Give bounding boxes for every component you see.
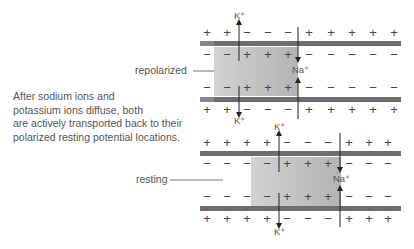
svg-text:−: − [369,47,377,62]
svg-text:−: − [327,80,335,95]
svg-text:+: + [243,47,251,62]
svg-text:+: + [203,25,211,40]
svg-text:+: + [345,211,353,226]
svg-text:−: − [345,156,353,171]
svg-text:−: − [243,156,251,171]
repolarized-diagram: ++−−− +++++ −−+++ −−−−− −−+++ −−−−− ++−−… [200,10,401,126]
svg-text:+: + [243,80,251,95]
svg-text:+: + [304,156,312,171]
svg-text:−: − [348,80,356,95]
svg-text:+: + [264,47,272,62]
k-ion-label-top: K⁺ [274,121,285,132]
svg-text:−: − [243,189,251,204]
svg-text:−: − [284,25,292,40]
svg-text:+: + [345,135,353,150]
svg-text:+: + [365,211,373,226]
svg-text:+: + [243,135,251,150]
svg-text:+: + [223,102,231,117]
svg-text:+: + [305,25,313,40]
svg-text:+: + [264,80,272,95]
svg-text:+: + [263,135,271,150]
svg-text:−: − [305,80,313,95]
svg-text:−: − [264,25,272,40]
svg-text:+: + [223,211,231,226]
k-ion-label-bottom: K⁺ [274,226,285,237]
svg-text:−: − [203,80,211,95]
svg-text:+: + [283,189,291,204]
svg-text:−: − [203,156,211,171]
svg-text:+: + [390,25,398,40]
svg-text:+: + [384,211,392,226]
svg-text:+: + [327,25,335,40]
svg-text:+: + [203,211,211,226]
svg-text:+: + [384,135,392,150]
svg-text:−: − [223,80,231,95]
svg-text:+: + [348,102,356,117]
svg-text:+: + [348,25,356,40]
svg-text:−: − [390,47,398,62]
svg-text:−: − [365,189,373,204]
svg-text:−: − [284,102,292,117]
svg-text:+: + [365,135,373,150]
svg-text:−: − [345,189,353,204]
svg-text:+: + [203,135,211,150]
svg-text:−: − [223,189,231,204]
svg-text:−: − [324,211,332,226]
svg-text:−: − [264,102,272,117]
svg-text:+: + [263,211,271,226]
svg-text:−: − [243,25,251,40]
svg-text:−: − [369,80,377,95]
svg-text:+: + [223,135,231,150]
svg-text:+: + [284,80,292,95]
svg-text:−: − [223,47,231,62]
svg-text:−: − [348,47,356,62]
svg-text:−: − [384,189,392,204]
svg-text:−: − [327,47,335,62]
svg-text:+: + [369,25,377,40]
membrane-diagram: ++−−− +++++ −−+++ −−−−− −−+++ −−−−− ++−−… [0,0,414,249]
svg-text:+: + [304,189,312,204]
svg-text:−: − [263,156,271,171]
svg-text:−: − [203,189,211,204]
k-ion-label-bottom: K⁺ [234,115,245,126]
k-ion-label-top: K⁺ [234,10,245,21]
svg-text:+: + [369,102,377,117]
svg-text:−: − [223,156,231,171]
svg-text:−: − [283,211,291,226]
svg-text:−: − [263,189,271,204]
svg-text:−: − [305,47,313,62]
svg-text:−: − [304,211,312,226]
svg-text:−: − [304,135,312,150]
svg-text:−: − [365,156,373,171]
svg-text:+: + [223,25,231,40]
svg-text:+: + [243,211,251,226]
resting-diagram: ++++− −−+++ −−−−+ ++−−− −−−−+ ++−−− ++++… [200,121,401,237]
svg-text:+: + [284,47,292,62]
svg-text:+: + [283,156,291,171]
na-ion-label: Na⁺ [333,173,350,184]
svg-text:+: + [390,102,398,117]
svg-text:−: − [203,47,211,62]
svg-text:−: − [384,156,392,171]
svg-text:−: − [324,135,332,150]
svg-text:+: + [324,156,332,171]
svg-text:−: − [390,80,398,95]
svg-text:+: + [203,102,211,117]
svg-text:+: + [305,102,313,117]
svg-text:+: + [324,189,332,204]
svg-text:+: + [327,102,335,117]
na-ion-label: Na⁺ [292,64,309,75]
svg-text:−: − [283,135,291,150]
top-membrane [200,41,401,46]
